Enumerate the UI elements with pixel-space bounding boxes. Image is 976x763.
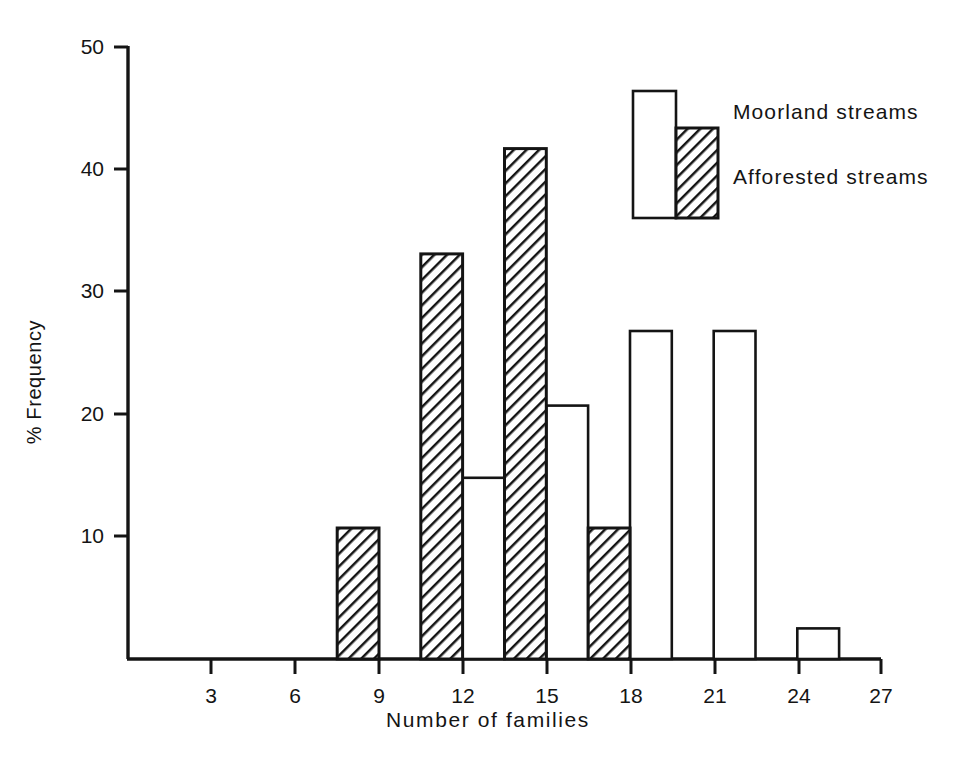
bar-afforested-13-5 xyxy=(505,149,547,659)
x-tick-label-6: 6 xyxy=(289,684,301,708)
y-tick-label-10: 10 xyxy=(64,524,104,548)
y-tick-label-30: 30 xyxy=(64,279,104,303)
chart-figure: 50 40 30 20 10 3 6 9 12 15 18 21 24 27 %… xyxy=(0,0,976,763)
legend-label-moorland: Moorland streams xyxy=(733,100,919,124)
bar-moorland-21 xyxy=(714,331,756,659)
legend-swatches xyxy=(633,91,718,218)
bar-afforested-10-5 xyxy=(421,254,463,659)
y-tick-label-40: 40 xyxy=(64,157,104,181)
y-axis-ticks xyxy=(114,47,128,536)
bar-moorland-24 xyxy=(797,628,839,659)
x-axis-ticks xyxy=(211,659,881,674)
legend-swatch-afforested xyxy=(676,128,718,218)
x-tick-label-18: 18 xyxy=(619,684,642,708)
x-tick-label-3: 3 xyxy=(205,684,217,708)
x-tick-label-24: 24 xyxy=(787,684,810,708)
bar-afforested-16-5 xyxy=(588,528,630,659)
legend-swatch-moorland xyxy=(633,91,676,218)
x-tick-label-9: 9 xyxy=(373,684,385,708)
x-tick-label-15: 15 xyxy=(535,684,558,708)
x-tick-label-27: 27 xyxy=(869,684,892,708)
bar-moorland-18 xyxy=(630,331,672,659)
y-tick-label-50: 50 xyxy=(64,35,104,59)
legend-label-afforested: Afforested streams xyxy=(733,165,929,189)
x-axis-title: Number of families xyxy=(0,708,976,732)
bar-moorland-15 xyxy=(546,406,588,659)
bar-moorland-12 xyxy=(463,478,505,659)
y-axis-title: % Frequency xyxy=(23,320,46,444)
y-tick-label-20: 20 xyxy=(64,402,104,426)
x-tick-label-21: 21 xyxy=(703,684,726,708)
bar-afforested-7-5 xyxy=(337,528,379,659)
x-tick-label-12: 12 xyxy=(451,684,474,708)
